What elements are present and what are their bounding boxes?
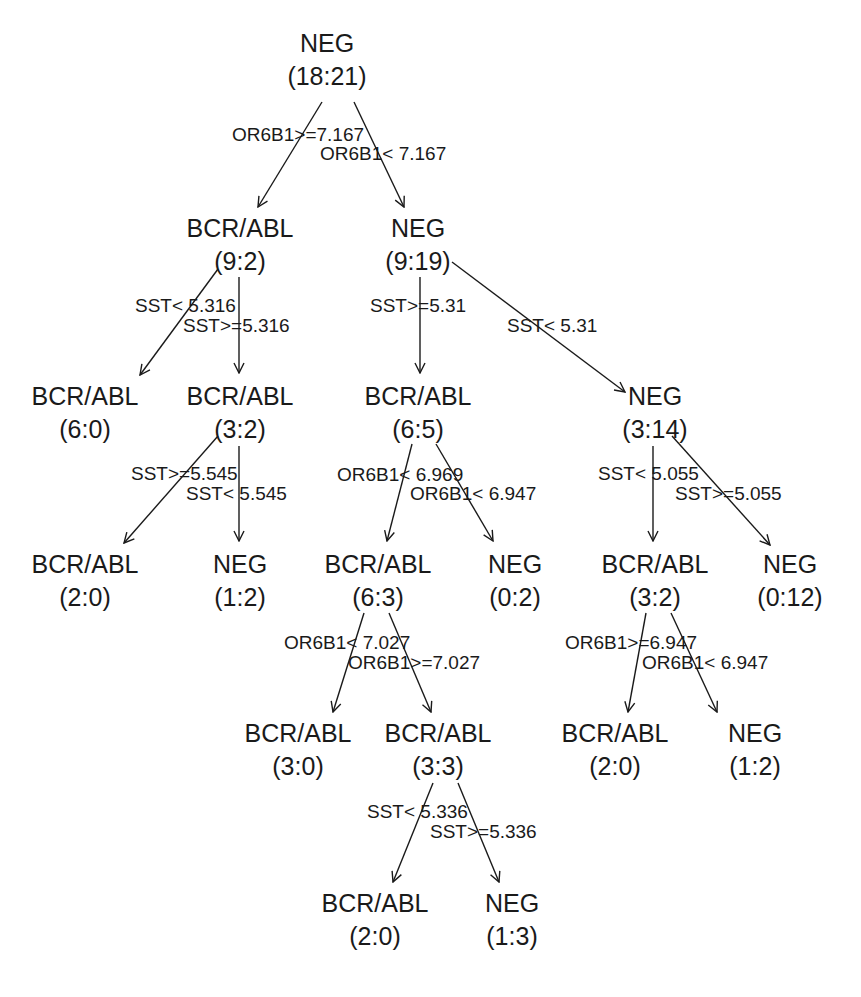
node-count-label: (3:2) [214,415,265,443]
split-condition-label: SST>=5.31 [370,295,466,316]
tree-node: NEG(18:21) [287,29,366,90]
tree-node: BCR/ABL(2:0) [322,889,429,950]
node-count-label: (1:2) [729,752,780,780]
node-count-label: (6:0) [59,415,110,443]
tree-node: BCR/ABL(6:0) [32,382,139,443]
node-class-label: BCR/ABL [602,550,709,578]
node-count-label: (0:2) [489,583,540,611]
split-condition-label: SST< 5.545 [186,483,287,504]
tree-edge-arrow [387,444,412,541]
node-class-label: BCR/ABL [385,719,492,747]
tree-edge-arrow [258,102,322,207]
tree-node: BCR/ABL(9:2) [187,214,294,275]
node-class-label: BCR/ABL [187,382,294,410]
split-condition-label: OR6B1>=7.027 [348,652,480,673]
node-class-label: BCR/ABL [562,719,669,747]
node-class-label: BCR/ABL [325,550,432,578]
node-class-label: NEG [628,382,682,410]
node-count-label: (6:3) [352,583,403,611]
split-condition-label: OR6B1< 6.969 [337,464,463,485]
tree-node: NEG(9:19) [385,214,450,275]
node-count-label: (9:2) [214,247,265,275]
node-count-label: (3:0) [272,752,323,780]
split-condition-label: SST>=5.055 [675,483,782,504]
tree-node: BCR/ABL(2:0) [32,550,139,611]
node-class-label: NEG [763,550,817,578]
node-class-label: NEG [728,719,782,747]
tree-node: NEG(1:2) [728,719,782,780]
node-count-label: (3:3) [412,752,463,780]
node-class-label: BCR/ABL [245,719,352,747]
node-count-label: (6:5) [392,415,443,443]
node-count-label: (2:0) [349,922,400,950]
tree-node: BCR/ABL(6:5) [365,382,472,443]
tree-node: BCR/ABL(2:0) [562,719,669,780]
node-count-label: (18:21) [287,62,366,90]
node-class-label: NEG [213,550,267,578]
tree-node: BCR/ABL(3:2) [602,550,709,611]
node-class-label: BCR/ABL [32,382,139,410]
split-condition-label: OR6B1>=6.947 [565,632,697,653]
tree-node: NEG(1:2) [213,550,267,611]
node-class-label: BCR/ABL [32,550,139,578]
tree-node: BCR/ABL(6:3) [325,550,432,611]
split-condition-label: SST< 5.336 [367,801,468,822]
node-count-label: (1:2) [214,583,265,611]
node-class-label: NEG [391,214,445,242]
node-class-label: NEG [488,550,542,578]
node-count-label: (9:19) [385,247,450,275]
decision-tree-diagram: OR6B1>=7.167OR6B1< 7.167SST< 5.316SST>=5… [0,0,861,997]
node-class-label: BCR/ABL [365,382,472,410]
split-condition-label: OR6B1< 6.947 [642,652,768,673]
node-count-label: (2:0) [59,583,110,611]
node-class-label: BCR/ABL [187,214,294,242]
node-class-label: BCR/ABL [322,889,429,917]
tree-edge-arrow [393,783,433,882]
tree-node: BCR/ABL(3:2) [187,382,294,443]
tree-node: NEG(1:3) [485,889,539,950]
split-condition-label: OR6B1< 6.947 [410,483,536,504]
node-count-label: (3:2) [629,583,680,611]
tree-svg: OR6B1>=7.167OR6B1< 7.167SST< 5.316SST>=5… [0,0,861,997]
node-count-label: (3:14) [622,415,687,443]
tree-node: NEG(0:12) [757,550,822,611]
split-condition-label: SST< 5.316 [135,295,236,316]
split-condition-label: SST< 5.31 [507,315,597,336]
split-condition-label: OR6B1< 7.027 [284,632,410,653]
node-class-label: NEG [485,889,539,917]
split-condition-label: SST>=5.336 [430,821,537,842]
tree-node: BCR/ABL(3:0) [245,719,352,780]
split-condition-label: SST< 5.055 [598,463,699,484]
split-condition-label: OR6B1>=7.167 [232,124,364,145]
tree-node: NEG(3:14) [622,382,687,443]
split-condition-label: OR6B1< 7.167 [320,143,446,164]
tree-node: NEG(0:2) [488,550,542,611]
node-class-label: NEG [300,29,354,57]
tree-node: BCR/ABL(3:3) [385,719,492,780]
node-count-label: (0:12) [757,583,822,611]
split-condition-label: SST>=5.545 [131,463,238,484]
node-count-label: (1:3) [486,922,537,950]
split-condition-label: SST>=5.316 [183,315,290,336]
node-count-label: (2:0) [589,752,640,780]
